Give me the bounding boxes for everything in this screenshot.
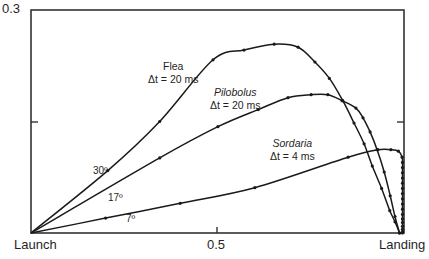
data-point-pilobolus (354, 107, 357, 110)
data-point-pilobolus (341, 99, 344, 102)
data-point-pilobolus (398, 231, 401, 234)
data-point-sordaria (401, 166, 404, 169)
data-point-flea (380, 187, 383, 190)
angle-label-30: 30º (93, 164, 108, 178)
data-point-pilobolus (158, 156, 161, 159)
series-layer (31, 43, 404, 235)
data-point-pilobolus (286, 96, 289, 99)
data-point-sordaria (401, 208, 404, 211)
data-point-sordaria (401, 176, 404, 179)
data-point-sordaria (401, 225, 404, 228)
data-point-sordaria (401, 171, 404, 174)
data-point-sordaria (401, 156, 404, 159)
data-point-flea (352, 121, 355, 124)
data-point-sordaria (401, 217, 404, 220)
sordaria-name: Sordaria (270, 137, 315, 150)
data-point-pilobolus (383, 170, 386, 173)
series-line-pilobolus (31, 94, 400, 233)
data-point-flea (211, 58, 214, 61)
data-point-sordaria (104, 217, 107, 220)
data-point-flea (297, 46, 300, 49)
flea-dt: Δt = 20 ms (148, 73, 199, 86)
data-point-flea (328, 77, 331, 80)
data-point-pilobolus (369, 130, 372, 133)
data-point-sordaria (401, 197, 404, 200)
data-point-pilobolus (326, 93, 329, 96)
annotation-sordaria: Sordaria Δt = 4 ms (270, 137, 315, 163)
annotation-pilobolus: Pilobolus Δt = 20 ms (210, 86, 261, 112)
data-point-pilobolus (216, 125, 219, 128)
data-point-pilobolus (393, 215, 396, 218)
series-line-flea (31, 44, 400, 233)
y-tick-label-top: 0.3 (2, 2, 20, 16)
data-point-sordaria (401, 202, 404, 205)
data-point-flea (158, 120, 161, 123)
x-tick-label-landing: Landing (379, 238, 425, 252)
data-point-sordaria (253, 186, 256, 189)
data-point-sordaria (401, 231, 404, 234)
x-tick-label-mid: 0.5 (207, 238, 225, 252)
data-point-sordaria (389, 148, 392, 151)
data-point-sordaria (401, 161, 404, 164)
angle-label-7: 7º (126, 212, 135, 226)
data-point-sordaria (376, 148, 379, 151)
data-point-flea (388, 209, 391, 212)
data-point-sordaria (347, 156, 350, 159)
data-point-flea (273, 43, 276, 46)
sordaria-dt: Δt = 4 ms (270, 150, 315, 163)
data-point-flea (242, 49, 245, 52)
data-point-sordaria (401, 221, 404, 224)
x-tick-label-launch: Launch (14, 238, 57, 252)
data-point-flea (313, 60, 316, 63)
data-point-flea (363, 142, 366, 145)
data-point-sordaria (179, 202, 182, 205)
data-point-pilobolus (310, 93, 313, 96)
data-point-pilobolus (389, 194, 392, 197)
pilobolus-dt: Δt = 20 ms (210, 99, 261, 112)
data-point-sordaria (401, 192, 404, 195)
annotation-flea: Flea Δt = 20 ms (148, 60, 199, 86)
pilobolus-name: Pilobolus (210, 86, 261, 99)
angle-label-17: 17º (108, 191, 123, 205)
series-line-sordaria (31, 149, 403, 233)
flea-name: Flea (148, 60, 199, 73)
data-point-sordaria (397, 150, 400, 153)
data-point-pilobolus (361, 116, 364, 119)
data-point-sordaria (401, 182, 404, 185)
data-point-sordaria (401, 187, 404, 190)
data-point-sordaria (401, 213, 404, 216)
trajectory-chart (0, 0, 429, 259)
data-point-flea (371, 165, 374, 168)
